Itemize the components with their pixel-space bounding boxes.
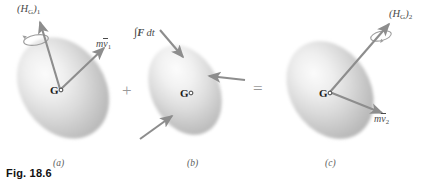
panel-letter-a: (a): [53, 158, 64, 168]
panel-a-linear-momentum-label: mv1: [96, 39, 111, 50]
panel-a-centroid-label: G: [50, 84, 59, 96]
panel-b-impulse-arrow-bottom: [140, 116, 172, 139]
figure-canvas: (HG)1 mv1 G + ∫F dt G = (HG)2 mv2 G (a) …: [0, 0, 432, 195]
panel-a-angular-momentum-label: (HG)1: [17, 4, 40, 16]
panel-b-impulse-label: ∫F dt: [134, 26, 155, 39]
panel-c-angular-momentum-label: (HG)2: [389, 9, 412, 21]
panel-c-centroid-marker: [328, 91, 332, 95]
panel-c-body: [269, 25, 392, 156]
equals-operator: =: [253, 80, 263, 97]
mechanics-figure-graphics: [0, 0, 432, 195]
panel-letter-b: (b): [187, 158, 198, 168]
panel-letter-c: (c): [325, 158, 336, 168]
panel-a-centroid-marker: [59, 88, 63, 92]
panel-b-centroid-label: G: [180, 87, 189, 99]
panel-c-centroid-label: G: [319, 87, 328, 99]
panel-c-linear-momentum-label: mv2: [374, 114, 389, 125]
panel-b-centroid-marker: [189, 91, 193, 95]
plus-operator: +: [122, 82, 132, 99]
figure-caption: Fig. 18.6: [6, 167, 52, 179]
